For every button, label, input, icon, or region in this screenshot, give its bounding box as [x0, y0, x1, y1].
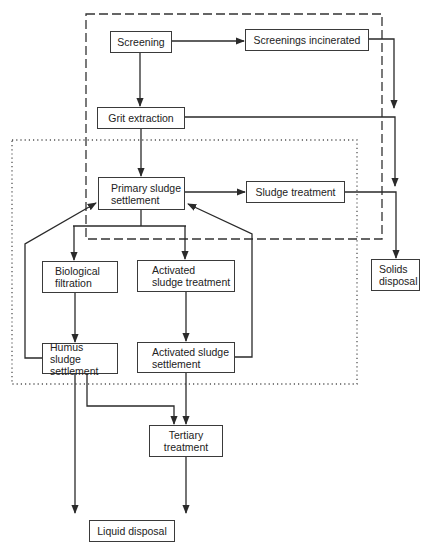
node-label: Solids disposal	[379, 263, 418, 287]
node-label: Screenings incinerated	[254, 34, 361, 46]
node-label: Grit extraction	[108, 112, 173, 124]
node-tertiary-treatment: Tertiary treatment	[149, 425, 223, 457]
node-activated-sludge-settlement: Activated sludge settlement	[137, 342, 235, 373]
node-label: Humus sludge settlement	[50, 341, 117, 377]
node-label: Primary sludge settlement	[111, 182, 181, 206]
node-label: Biological filtration	[55, 265, 100, 289]
node-label: Screening	[117, 36, 164, 48]
node-screening: Screening	[110, 31, 172, 53]
node-label: Liquid disposal	[97, 525, 166, 537]
node-activated-sludge-treatment: Activated sludge treatment	[137, 260, 235, 292]
node-label: Tertiary treatment	[164, 429, 208, 453]
node-label: Sludge treatment	[256, 186, 336, 198]
node-grit-extraction: Grit extraction	[97, 107, 185, 129]
node-liquid-disposal: Liquid disposal	[89, 520, 175, 542]
node-biological-filtration: Biological filtration	[42, 261, 118, 293]
node-label: Activated sludge treatment	[152, 264, 230, 288]
node-primary-sludge-settlement: Primary sludge settlement	[98, 177, 185, 210]
node-screenings-incinerated: Screenings incinerated	[245, 29, 369, 51]
node-solids-disposal: Solids disposal	[371, 259, 420, 291]
node-humus-sludge-settlement: Humus sludge settlement	[42, 343, 118, 374]
node-label: Activated sludge settlement	[152, 346, 229, 370]
node-sludge-treatment: Sludge treatment	[246, 181, 345, 203]
